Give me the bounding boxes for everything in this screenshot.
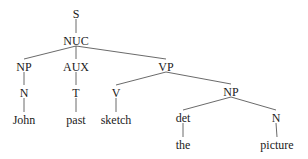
node-s: S (73, 7, 80, 21)
node-aux: AUX (63, 60, 89, 74)
node-nuc: NUC (63, 34, 88, 48)
tree-nodes: SNUCNPAUXVPNTVNPJohnpastsketchdetNthepic… (13, 7, 294, 152)
node-n2: N (272, 111, 281, 125)
syntax-tree: SNUCNPAUXVPNTVNPJohnpastsketchdetNthepic… (0, 0, 308, 159)
edge-n2-picture (276, 123, 277, 137)
tree-edges (24, 19, 277, 137)
node-vp: VP (158, 60, 174, 74)
node-v: V (112, 86, 121, 100)
node-t: T (72, 86, 80, 100)
edge-nuc-vp (76, 46, 166, 59)
node-sketch: sketch (101, 113, 132, 127)
node-picture: picture (260, 138, 293, 152)
node-past: past (66, 113, 86, 127)
node-n1: N (20, 86, 29, 100)
node-the: the (176, 138, 191, 152)
node-np2: NP (223, 85, 239, 99)
node-det: det (176, 111, 191, 125)
node-john: John (13, 113, 36, 127)
edge-vp-np2 (166, 72, 231, 84)
node-np1: NP (16, 60, 32, 74)
